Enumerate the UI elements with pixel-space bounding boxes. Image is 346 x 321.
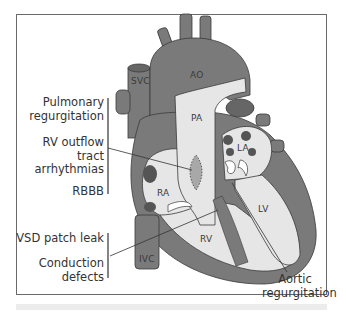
label-pulmonary-regurgitation: Pulmonary regurgitation xyxy=(29,96,104,123)
label-rv-outflow-arrhythmias: RV outflow tract arrhythmias xyxy=(35,136,104,177)
label-pa: PA xyxy=(191,113,202,123)
label-lv: LV xyxy=(258,204,269,214)
label-rbbb: RBBB xyxy=(72,185,104,199)
label-ra: RA xyxy=(157,188,169,198)
label-ao: AO xyxy=(190,70,203,80)
label-ivc: IVC xyxy=(139,254,155,264)
label-conduction-defects: Conduction defects xyxy=(39,257,104,284)
label-svc: SVC xyxy=(131,76,150,86)
label-la: LA xyxy=(237,143,249,153)
label-rv: RV xyxy=(200,234,212,244)
label-aortic-regurgitation: Aortic regurgitation xyxy=(262,273,328,300)
label-vsd-patch-leak: VSD patch leak xyxy=(16,232,104,246)
